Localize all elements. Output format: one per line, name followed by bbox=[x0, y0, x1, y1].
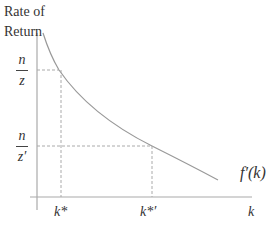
curve-label: f′(k) bbox=[240, 164, 266, 182]
numerator: n bbox=[19, 52, 26, 68]
tick-n-over-z: n z bbox=[16, 52, 28, 89]
tick-k-star: k* bbox=[54, 204, 67, 220]
y-axis-label-line1: Rate of bbox=[4, 4, 45, 20]
tick-k-star-prime: k*′ bbox=[140, 204, 156, 220]
fraction-bar bbox=[16, 146, 28, 147]
y-axis-label-line2: Return bbox=[4, 24, 42, 40]
denominator: z bbox=[19, 73, 24, 89]
denominator: z′ bbox=[18, 149, 27, 165]
x-axis-label: k bbox=[248, 204, 254, 220]
marginal-product-curve bbox=[43, 33, 218, 180]
fraction-bar bbox=[16, 70, 28, 71]
tick-n-over-z-prime: n z′ bbox=[16, 128, 28, 165]
numerator: n bbox=[19, 128, 26, 144]
